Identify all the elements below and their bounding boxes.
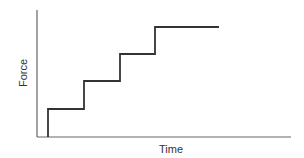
x-axis-label: Time — [159, 143, 183, 155]
step-chart: Force Time — [0, 0, 304, 158]
force-step-line — [48, 27, 219, 137]
y-axis-label: Force — [17, 59, 29, 87]
